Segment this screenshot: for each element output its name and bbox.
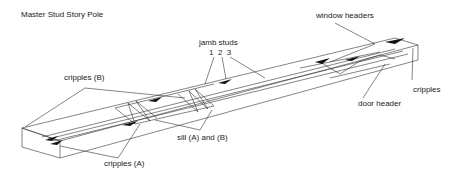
leader-jamb-3 [230, 57, 265, 78]
leader-window-headers [335, 23, 375, 44]
leader-cripples-right [412, 48, 413, 80]
leader-cripples-a-left [60, 146, 118, 158]
leader-door-header [363, 64, 385, 98]
pole-top-face [22, 38, 418, 141]
leader-jamb-2 [222, 57, 226, 79]
leader-jamb-1 [205, 57, 214, 84]
story-pole-drawing [0, 0, 455, 180]
leader-cripples-b-left [25, 88, 85, 127]
pole-side-face [60, 45, 418, 158]
leader-cripples-b-right [85, 88, 185, 98]
